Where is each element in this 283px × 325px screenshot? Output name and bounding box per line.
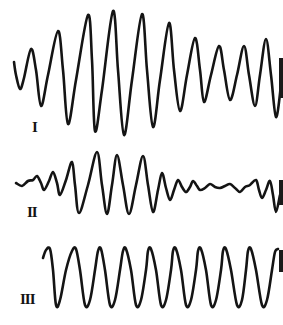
edge-mark [279, 180, 283, 205]
waveform-trace-iii [43, 247, 278, 307]
trace-label-ii: II [27, 205, 37, 220]
edge-mark [279, 58, 283, 98]
edge-mark [279, 250, 283, 272]
waveform-diagram [0, 0, 283, 325]
trace-label-i: I [32, 120, 37, 135]
waveform-trace-ii [16, 152, 280, 214]
waveform-trace-i [14, 11, 281, 135]
trace-label-iii: III [20, 292, 35, 307]
